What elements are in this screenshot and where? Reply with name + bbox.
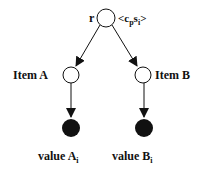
item-a-label: Item A (13, 68, 48, 82)
value-a-node (62, 119, 80, 137)
item-b-label: Item B (155, 68, 190, 82)
edge-root-item-b (112, 25, 137, 66)
value-b-label: value Bi (112, 149, 153, 165)
root-node (97, 9, 115, 27)
root-label: r (89, 11, 95, 25)
value-a-label: value Ai (38, 149, 79, 165)
value-b-node (135, 119, 153, 137)
item-b-node (135, 67, 151, 83)
edge-root-item-a (76, 25, 100, 66)
root-annotation: <cpsi> (118, 12, 146, 27)
item-a-node (63, 67, 79, 83)
tree-diagram: r <cpsi> Item A Item B value Ai value Bi (0, 0, 210, 175)
